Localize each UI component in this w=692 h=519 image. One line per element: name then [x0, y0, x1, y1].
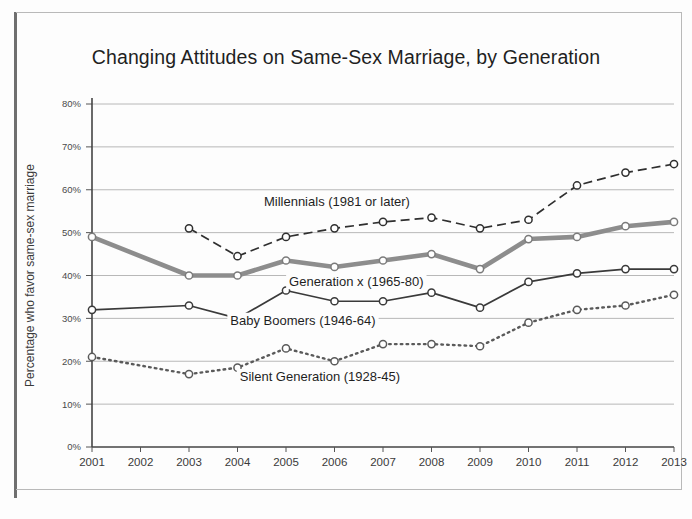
series-label-0: Millennials (1981 or later)	[264, 194, 410, 209]
series-line	[189, 164, 674, 256]
x-tick-label: 2008	[419, 456, 445, 468]
x-tick-label: 2013	[661, 456, 687, 468]
series-label-1: Generation x (1965-80)	[289, 274, 423, 289]
data-point-marker	[282, 233, 289, 240]
x-tick-label: 2010	[516, 456, 542, 468]
data-point-marker	[525, 216, 532, 223]
data-point-marker	[622, 223, 629, 230]
y-tick-label: 20%	[62, 356, 82, 367]
data-point-marker	[185, 272, 192, 279]
x-tick-label: 2001	[79, 456, 105, 468]
gridlines	[92, 104, 674, 404]
y-tick-label: 70%	[62, 141, 82, 152]
data-point-marker	[331, 358, 338, 365]
data-point-marker	[525, 319, 532, 326]
data-point-marker	[379, 341, 386, 348]
data-point-marker	[331, 263, 338, 270]
data-point-marker	[282, 345, 289, 352]
x-tick-label: 2004	[225, 456, 251, 468]
series-label-2: Baby Boomers (1946-64)	[230, 313, 375, 328]
series-1	[88, 218, 677, 279]
x-tick-label: 2007	[370, 456, 396, 468]
data-point-marker	[282, 257, 289, 264]
x-tick-label: 2002	[128, 456, 154, 468]
x-tick-label: 2005	[273, 456, 299, 468]
x-tick-label: 2009	[467, 456, 493, 468]
data-point-marker	[88, 306, 95, 313]
data-point-marker	[525, 278, 532, 285]
data-point-marker	[185, 371, 192, 378]
data-point-marker	[573, 270, 580, 277]
x-tick-label: 2011	[565, 456, 590, 468]
data-point-marker	[331, 298, 338, 305]
x-tick-label: 2006	[322, 456, 348, 468]
data-point-marker	[670, 265, 677, 272]
data-point-marker	[234, 253, 241, 260]
data-point-marker	[428, 250, 435, 257]
data-point-marker	[331, 225, 338, 232]
data-point-marker	[476, 304, 483, 311]
data-point-marker	[573, 306, 580, 313]
data-point-marker	[622, 265, 629, 272]
x-tick-label: 2003	[176, 456, 202, 468]
data-point-marker	[379, 298, 386, 305]
line-chart: 0%10%20%30%40%50%60%70%80% 2001200220032…	[0, 0, 692, 519]
series-label-3: Silent Generation (1928-45)	[240, 369, 400, 384]
y-tick-label: 0%	[67, 441, 81, 452]
data-point-marker	[185, 225, 192, 232]
data-point-marker	[670, 160, 677, 167]
data-point-marker	[379, 257, 386, 264]
data-point-marker	[379, 218, 386, 225]
data-point-marker	[476, 265, 483, 272]
series-0	[185, 160, 677, 259]
data-point-marker	[476, 225, 483, 232]
data-point-marker	[88, 353, 95, 360]
data-point-marker	[234, 272, 241, 279]
x-tick-label: 2012	[613, 456, 639, 468]
y-axis-title: Percentage who favor same-sex marriage	[23, 164, 37, 387]
y-axis-title-text: Percentage who favor same-sex marriage	[23, 164, 37, 387]
y-tick-label: 80%	[62, 98, 82, 109]
data-point-marker	[428, 214, 435, 221]
y-tick-label: 60%	[62, 184, 82, 195]
x-tick-labels: 2001200220032004200520062007200820092010…	[79, 456, 687, 468]
y-tick-label: 30%	[62, 313, 82, 324]
data-point-marker	[670, 291, 677, 298]
data-point-marker	[622, 302, 629, 309]
data-point-marker	[670, 218, 677, 225]
series-line	[92, 222, 674, 276]
series-annotations: Millennials (1981 or later)Generation x …	[227, 194, 426, 385]
scanned-chart-page: Changing Attitudes on Same-Sex Marriage,…	[0, 0, 692, 519]
data-point-marker	[185, 302, 192, 309]
data-point-marker	[428, 289, 435, 296]
data-point-marker	[88, 233, 95, 240]
y-tick-label: 40%	[62, 270, 82, 281]
data-point-marker	[476, 343, 483, 350]
y-tick-label: 50%	[62, 227, 82, 238]
data-point-marker	[573, 182, 580, 189]
data-series	[88, 160, 677, 377]
data-point-marker	[428, 341, 435, 348]
data-point-marker	[525, 235, 532, 242]
y-tick-labels: 0%10%20%30%40%50%60%70%80%	[62, 98, 82, 452]
y-tick-label: 10%	[62, 399, 82, 410]
data-point-marker	[573, 233, 580, 240]
chart-plot-area: 0%10%20%30%40%50%60%70%80% 2001200220032…	[0, 0, 692, 519]
data-point-marker	[622, 169, 629, 176]
